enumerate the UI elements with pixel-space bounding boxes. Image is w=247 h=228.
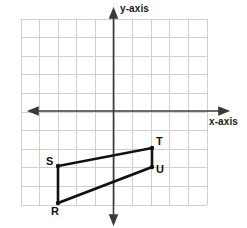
x-axis-arrow-left bbox=[29, 107, 38, 114]
x-axis-arrow-right bbox=[219, 107, 228, 114]
coordinate-plane-figure: y-axis x-axis R S T U bbox=[0, 0, 247, 228]
coordinate-plane-canvas bbox=[0, 0, 247, 228]
y-axis-arrow-up bbox=[110, 9, 117, 18]
y-axis-label: y-axis bbox=[120, 3, 149, 14]
vertex-point-U bbox=[150, 165, 154, 169]
vertex-label-U: U bbox=[156, 163, 164, 175]
vertex-label-S: S bbox=[46, 155, 53, 167]
vertex-label-R: R bbox=[51, 205, 59, 217]
vertex-point-S bbox=[56, 164, 60, 168]
vertex-point-T bbox=[150, 146, 154, 150]
y-axis-arrow-down bbox=[110, 215, 117, 224]
quadrilateral-outline bbox=[58, 148, 152, 203]
quadrilateral-rstu bbox=[56, 146, 154, 205]
x-axis-label: x-axis bbox=[209, 116, 238, 127]
vertex-label-T: T bbox=[156, 135, 163, 147]
